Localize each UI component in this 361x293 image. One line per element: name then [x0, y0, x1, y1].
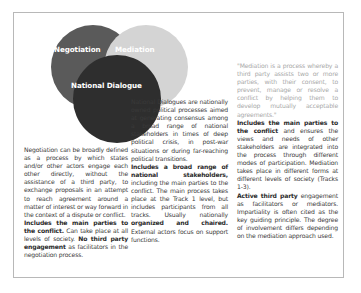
mediation-features: Includes the main parties to the conflic…	[237, 119, 338, 192]
mediation-feature-text-1: and ensures the views and needs of other…	[237, 127, 338, 191]
national-dialogue-column: National Dialogues are nationally owned …	[131, 98, 228, 244]
negotiation-features: Includes the main parties to the conflic…	[24, 219, 128, 259]
national-dialogue-feature-bold-2: organized and chaired.	[131, 219, 228, 226]
national-dialogue-label: National Dialogue	[71, 81, 142, 90]
negotiation-column: Negotiation can be broadly defined as a …	[24, 146, 128, 259]
mediation-feature-bold-2: Active third party	[237, 192, 298, 199]
national-dialogue-feature-text-2: External actors focus on support functio…	[131, 228, 228, 243]
mediation-feature-text-2: engagement as facilitators or mediators.…	[237, 192, 338, 239]
national-dialogue-definition: National Dialogues are nationally owned …	[131, 98, 228, 163]
national-dialogue-feature-text-1: including the main parties to the confli…	[131, 179, 228, 218]
mediation-column: "Mediation is a process whereby a third …	[237, 62, 338, 240]
negotiation-definition: Negotiation can be broadly defined as a …	[24, 146, 128, 219]
negotiation-label: Negotiation	[54, 45, 101, 54]
document-page: Negotiation Mediation National Dialogue …	[0, 0, 361, 293]
national-dialogue-feature-bold-1: Includes a broad range of national stake…	[131, 163, 228, 178]
mediation-quote: "Mediation is a process whereby a third …	[237, 62, 338, 119]
national-dialogue-features: Includes a broad range of national stake…	[131, 163, 228, 244]
mediation-features-2: Active third party engagement as facilit…	[237, 192, 338, 241]
mediation-label: Mediation	[115, 45, 155, 54]
